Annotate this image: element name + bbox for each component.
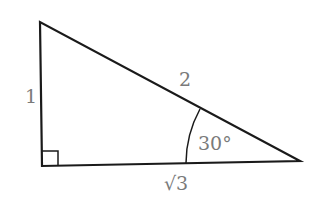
right-angle-marker <box>42 151 58 166</box>
angle-label: 30° <box>198 134 232 153</box>
triangle-figure <box>0 0 311 206</box>
hypotenuse-label: 2 <box>179 70 191 89</box>
long-leg-label: √3 <box>164 174 188 193</box>
triangle <box>40 22 300 166</box>
short-leg-label: 1 <box>25 87 37 106</box>
